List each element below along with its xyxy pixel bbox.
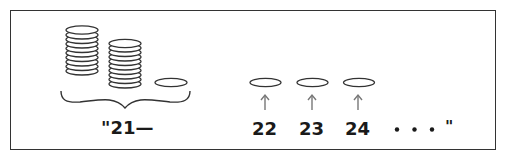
- coin-23: [297, 78, 328, 86]
- arrow-up-icon: [261, 95, 269, 110]
- closing-quote: ": [445, 118, 453, 136]
- group-label: "21—: [101, 119, 153, 137]
- arrow-up-icon: [354, 95, 362, 110]
- ellipsis-dots: [395, 127, 434, 131]
- count-label-22: 22: [252, 120, 277, 138]
- single-coin: [155, 78, 187, 86]
- count-label-24: 24: [345, 120, 370, 138]
- coin-24: [344, 78, 375, 86]
- coin-stack-2: [109, 39, 141, 88]
- coin-stack-1: [66, 26, 98, 75]
- grouping-brace: [61, 91, 190, 108]
- count-label-23: 23: [299, 120, 324, 138]
- coin-22: [250, 78, 281, 86]
- arrow-up-icon: [308, 95, 316, 110]
